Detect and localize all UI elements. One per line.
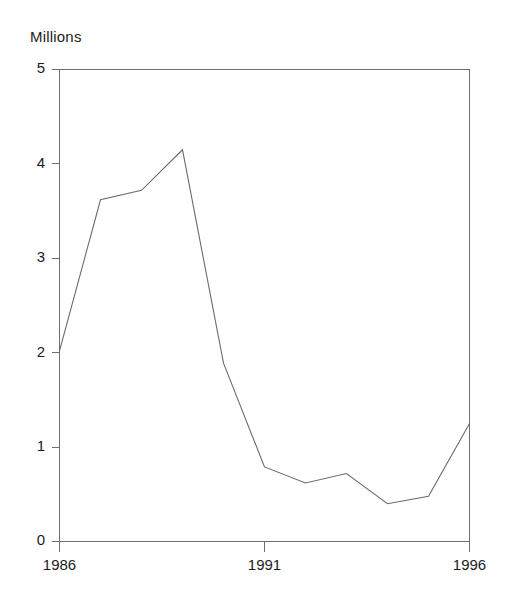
x-tick-label-1991: 1991 [248, 556, 281, 573]
y-tick-marks [52, 70, 60, 542]
y-tick-label-2: 2 [37, 343, 45, 360]
y-tick-label-3: 3 [37, 248, 45, 265]
y-tick-label-4: 4 [37, 154, 45, 171]
data-series-line [60, 150, 470, 504]
y-tick-label-0: 0 [37, 531, 45, 548]
x-tick-labels: 1986 1991 1996 [43, 556, 486, 573]
plot-area: 0 1 2 3 4 5 1986 1991 1996 [0, 0, 507, 606]
plot-frame [60, 70, 470, 542]
y-tick-label-5: 5 [37, 59, 45, 76]
x-tick-label-1996: 1996 [453, 556, 486, 573]
y-tick-labels: 0 1 2 3 4 5 [37, 59, 45, 548]
x-tick-marks [60, 542, 470, 552]
line-chart: Millions 0 1 2 3 4 5 [0, 0, 507, 606]
x-tick-label-1986: 1986 [43, 556, 76, 573]
y-tick-label-1: 1 [37, 437, 45, 454]
